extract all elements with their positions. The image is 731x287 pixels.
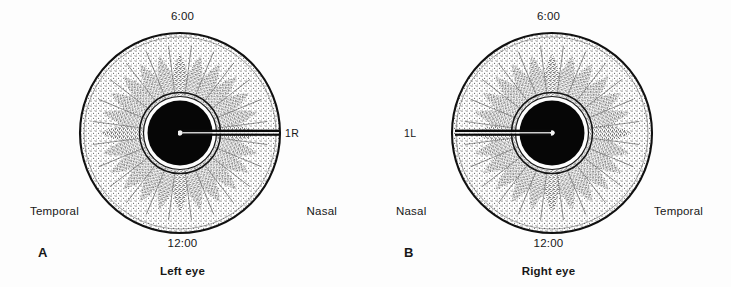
panel-left-eye: 6:00 12:00 Temporal Nasal 1R A Left eye [0, 0, 365, 287]
clock-label-top: 6:00 [171, 11, 194, 23]
panel-caption-left-eye: Left eye [160, 266, 205, 278]
eye-anatomy-figure: 6:00 12:00 Temporal Nasal 1R A Left eye [0, 0, 731, 287]
right-eye-marker-line [455, 130, 551, 136]
panel-letter-a: A [38, 246, 48, 259]
clock-label-bottom: 12:00 [534, 238, 564, 250]
side-label-temporal: Temporal [30, 206, 79, 218]
clock-label-top: 6:00 [537, 11, 560, 23]
panel-caption-right-eye: Right eye [522, 266, 576, 278]
side-label-nasal: Nasal [396, 206, 426, 218]
clock-label-bottom: 12:00 [168, 238, 198, 250]
side-label-nasal: Nasal [307, 206, 337, 218]
right-eye-globe [452, 33, 652, 233]
side-label-temporal: Temporal [654, 206, 703, 218]
left-eye-marker-line [183, 130, 279, 136]
panel-letter-b: B [404, 246, 414, 259]
left-eye-globe [80, 33, 280, 233]
marker-label-1l: 1L [404, 128, 416, 139]
panel-right-eye: 6:00 12:00 Nasal Temporal 1L B Right eye [366, 0, 731, 287]
marker-label-1r: 1R [285, 128, 299, 139]
